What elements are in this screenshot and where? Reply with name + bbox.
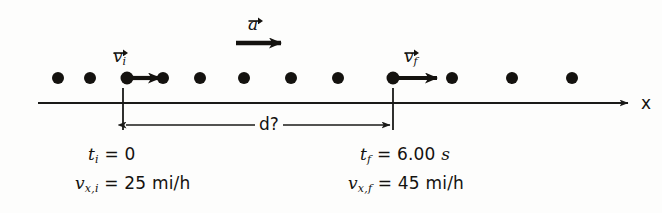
final-time-symbol: t (360, 144, 367, 164)
initial-velocity-annotation-value: = 25 mi/h (104, 173, 190, 193)
vector-hat-arrow-icon (248, 16, 263, 24)
final-velocity-label: vf (404, 48, 418, 67)
vector-hat-arrow-icon (404, 48, 419, 56)
particle-dot (332, 72, 344, 84)
particle-dot (285, 72, 297, 84)
final-time-annotation: tf = 6.00 s (360, 146, 450, 165)
initial-velocity-subscript: i (123, 55, 127, 68)
particle-dot (84, 72, 96, 84)
final-velocity-annotation-value: = 45 mi/h (378, 173, 464, 193)
final-time-value: = 6.00 (377, 144, 436, 164)
initial-velocity-label: vi (113, 48, 126, 67)
initial-velocity-annotation-subscript: x,i (85, 182, 99, 195)
motion-diagram-figure: vi a vf x d? ti = 0 vx,i = 25 mi/h tf = … (0, 0, 662, 213)
final-time-subscript: f (367, 153, 371, 166)
particle-dot (506, 72, 518, 84)
initial-time-subscript: i (95, 153, 99, 166)
distance-label: d? (255, 116, 283, 133)
particle-dot (238, 72, 250, 84)
initial-time-annotation: ti = 0 (88, 146, 135, 165)
particle-dot (446, 72, 458, 84)
acceleration-label: a (248, 16, 258, 33)
particle-dot (52, 72, 64, 84)
vector-hat-arrow-icon (113, 48, 128, 56)
final-velocity-annotation-subscript: x,f (358, 182, 372, 195)
initial-time-symbol: t (88, 144, 95, 164)
final-time-unit: s (441, 144, 450, 164)
initial-velocity-annotation: vx,i = 25 mi/h (75, 175, 191, 194)
final-velocity-annotation: vx,f = 45 mi/h (348, 175, 464, 194)
x-axis-label: x (641, 95, 651, 112)
final-velocity-subscript: f (414, 55, 418, 68)
particle-dot (194, 72, 206, 84)
final-velocity-annotation-symbol: v (348, 173, 358, 193)
initial-time-value: = 0 (104, 144, 135, 164)
initial-velocity-annotation-symbol: v (75, 173, 85, 193)
particle-dot (566, 72, 578, 84)
